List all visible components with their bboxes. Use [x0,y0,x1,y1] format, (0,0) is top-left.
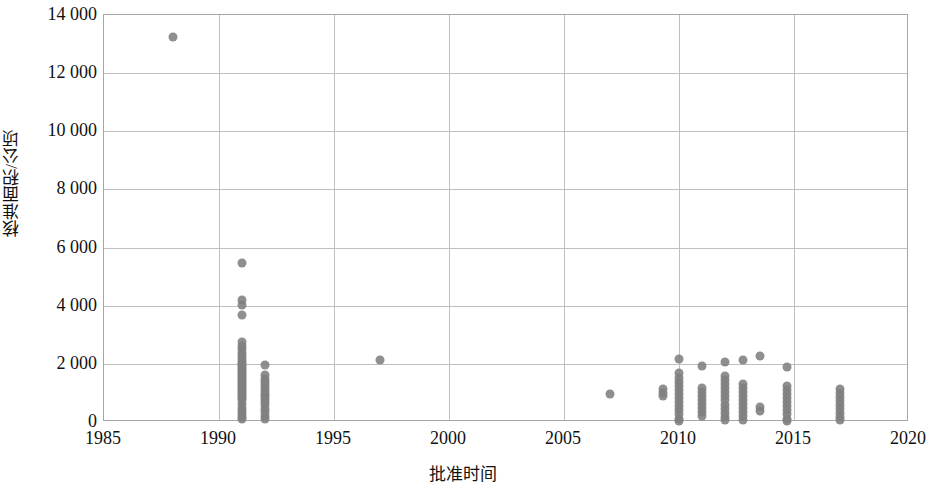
gridline-horizontal [104,248,907,249]
gridline-vertical [334,15,335,420]
gridline-vertical [219,15,220,420]
gridline-horizontal [104,131,907,132]
x-axis-tick-label: 2010 [638,428,718,448]
gridline-horizontal [104,189,907,190]
data-point [238,258,247,267]
x-axis-tick-label: 1990 [178,428,258,448]
data-point [261,361,270,370]
data-point [783,416,792,425]
gridline-horizontal [104,306,907,307]
data-point [238,415,247,424]
x-axis-tick-label: 1995 [293,428,373,448]
plot-area [103,14,908,421]
data-point [698,412,707,421]
x-axis-tick-label: 1985 [63,428,143,448]
gridline-vertical [449,15,450,420]
gridline-vertical [564,15,565,420]
data-point [675,354,684,363]
x-axis-tick-label: 2005 [523,428,603,448]
data-point [169,32,178,41]
y-axis-tick-label: 6 000 [5,238,97,256]
y-axis-tick-label: 4 000 [5,296,97,314]
data-point [739,415,748,424]
data-point [261,415,270,424]
x-axis-tick-label: 2020 [868,428,930,448]
data-point [783,363,792,372]
y-axis-tick-label: 2 000 [5,354,97,372]
data-point [658,392,667,401]
y-axis-tick-labels: 02 0004 0006 0008 00010 00012 00014 000 [0,0,97,491]
y-axis-title: 核准面积/公顷 [2,130,28,237]
y-axis-tick-label: 12 000 [5,63,97,81]
y-axis-tick-label: 14 000 [5,5,97,23]
gridline-horizontal [104,73,907,74]
gridline-vertical [794,15,795,420]
x-axis-title: 批准时间 [0,460,925,485]
data-point [238,311,247,320]
data-point [721,416,730,425]
data-point [698,361,707,370]
data-point [721,357,730,366]
data-point [238,301,247,310]
data-point [755,352,764,361]
data-point [755,406,764,415]
data-point [675,416,684,425]
data-point [836,416,845,425]
data-point [739,356,748,365]
x-axis-tick-label: 2015 [753,428,833,448]
data-point [606,390,615,399]
data-point [376,356,385,365]
x-axis-tick-label: 2000 [408,428,488,448]
